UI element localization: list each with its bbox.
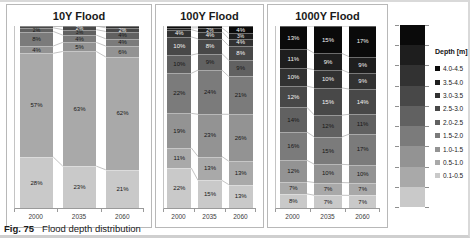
panel-100y-flood: 100Y Flood 22%11%19%22%10%10%4%15%13%23%… xyxy=(155,4,264,228)
legend-swatch-icon xyxy=(435,106,440,111)
bar-segment-0.5-1.0: 7% xyxy=(314,183,341,196)
bar-segment-2.5-3.0: 8% xyxy=(198,39,222,54)
scale-tick xyxy=(395,65,399,66)
panel-1000y-flood: 1000Y Flood 8%7%12%16%14%12%10%11%13%7%7… xyxy=(267,4,388,228)
bar-segment-0.5-1.0: 57% xyxy=(20,53,54,157)
legend-label: 2.0-2.5 xyxy=(443,119,463,126)
stacked-bar-2060: 13%13%26%21%9%8%4%3%4% xyxy=(229,26,253,208)
legend-label: 2.5-3.0 xyxy=(443,105,463,112)
bar-segment-1.5-2.0: 24% xyxy=(198,70,222,114)
bar-segment-3.5-4.0: 11% xyxy=(280,49,307,68)
legend-item-3.0-3.5: 3.0-3.5 xyxy=(435,89,468,102)
axis-tick xyxy=(310,209,311,212)
bar-segment-0.1-0.5: 15% xyxy=(198,180,222,208)
scale-segment-3.5-4.0 xyxy=(400,45,425,65)
depth-color-scale xyxy=(400,25,425,207)
x-axis-label-2035: 2035 xyxy=(72,213,86,220)
bar-segment-1.0-1.5: 10% xyxy=(349,165,376,183)
bar-segment-1.5-2.0: 17% xyxy=(349,134,376,165)
bar-segment-1.0-1.5: 26% xyxy=(229,114,253,161)
scale-segment-1.5-2.0 xyxy=(400,126,425,146)
bar-segment-0.1-0.5: 28% xyxy=(20,157,54,208)
legend-label: 0.5-1.0 xyxy=(443,159,463,166)
stacked-bar-2060: 21%62%6%4%4%2% xyxy=(106,26,140,208)
legend-title: Depth [m] xyxy=(435,48,468,55)
bar-segment-0.1-0.5: 22% xyxy=(167,168,191,208)
legend-label: 3.5-4.0 xyxy=(443,79,463,86)
stacked-bar-2035: 7%7%10%15%12%15%10%9%15% xyxy=(314,26,341,208)
x-axis-label-2000: 2000 xyxy=(28,213,42,220)
axis-tick xyxy=(143,209,144,212)
bar-segment-2.0-2.5: 11% xyxy=(349,114,376,134)
bar-segment-2.0-2.5: 9% xyxy=(229,60,253,76)
stacked-bar-2000: 8%7%12%16%14%12%10%11%13% xyxy=(280,26,307,208)
stacked-bar-2035: 23%63%5%4%3%2% xyxy=(63,26,97,208)
figure-row: 10Y Flood 28%57%4%8%2%23%63%5%4%3%2%21%6… xyxy=(6,4,469,228)
bar-segment-2.0-2.5: 9% xyxy=(198,54,222,71)
scale-segment-4.0-4.5 xyxy=(400,25,425,45)
stacked-bar-2060: 7%7%10%17%11%14%9%9%17% xyxy=(349,26,376,208)
axis-tick xyxy=(101,209,102,212)
x-axis-1000y: 200020352060 xyxy=(275,209,380,225)
scale-segment-2.0-2.5 xyxy=(400,106,425,126)
axis-tick xyxy=(255,209,256,212)
x-axis-label-2060: 2060 xyxy=(355,213,369,220)
legend: Depth [m] 4.0-4.53.5-4.03.0-3.52.5-3.02.… xyxy=(435,48,468,183)
bar-segment-4.0-4.5: 4% xyxy=(229,26,253,33)
legend-swatch-icon xyxy=(435,160,440,165)
x-axis-100y: 200020352060 xyxy=(163,209,256,225)
bar-segment-0.1-0.5: 8% xyxy=(280,194,307,208)
bar-segment-1.0-1.5: 6% xyxy=(106,46,140,57)
stacked-bar-2000: 22%11%19%22%10%10%4% xyxy=(167,26,191,208)
scale-tick xyxy=(395,106,399,107)
bar-segment-4.0-4.5: 17% xyxy=(349,26,376,57)
bar-segment-3.0-3.5: 10% xyxy=(314,70,341,88)
axis-tick xyxy=(14,209,15,212)
bar-segment-1.5-2.0: 4% xyxy=(63,35,97,42)
bar-segment-1.0-1.5: 19% xyxy=(167,113,191,148)
legend-swatch-icon xyxy=(435,120,440,125)
scale-segment-2.5-3.0 xyxy=(400,86,425,106)
scale-tick xyxy=(425,86,429,87)
bar-segment-2.5-3.0: 15% xyxy=(314,88,341,115)
bar-segment-3.0-3.5: 4% xyxy=(198,32,222,39)
scale-tick xyxy=(395,86,399,87)
bar-segment-1.5-2.0: 16% xyxy=(280,132,307,160)
scale-tick xyxy=(425,25,429,26)
panel-10y-flood: 10Y Flood 28%57%4%8%2%23%63%5%4%3%2%21%6… xyxy=(6,4,152,228)
bar-segment-1.5-2.0: 21% xyxy=(229,76,253,114)
scale-tick xyxy=(425,187,429,188)
bar-segment-0.5-1.0: 13% xyxy=(198,157,222,181)
bar-segment-1.0-1.5: 23% xyxy=(198,114,222,156)
bar-segment-0.1-0.5: 7% xyxy=(314,195,341,208)
x-axis-label-2060: 2060 xyxy=(233,213,247,220)
bar-segment-1.0-1.5: 10% xyxy=(314,164,341,182)
bar-segment-0.5-1.0: 63% xyxy=(63,51,97,166)
bar-segment-0.5-1.0: 13% xyxy=(229,161,253,184)
x-axis-label-2000: 2000 xyxy=(285,213,299,220)
scale-tick xyxy=(395,45,399,46)
bar-segment-4.0-4.5: 15% xyxy=(314,26,341,53)
bar-segment-1.5-2.0: 4% xyxy=(106,39,140,46)
plot-area-10y: 28%57%4%8%2%23%63%5%4%3%2%21%62%6%4%4%2% xyxy=(14,26,144,209)
plot-area-1000y: 8%7%12%16%14%12%10%11%13%7%7%10%15%12%15… xyxy=(275,26,380,209)
bar-segment-3.5-4.0: 9% xyxy=(314,53,341,69)
legend-swatch-icon xyxy=(435,80,440,85)
scale-tick xyxy=(395,25,399,26)
axis-tick xyxy=(225,209,226,212)
bar-segment-0.5-1.0: 11% xyxy=(167,148,191,168)
panel-title-10y: 10Y Flood xyxy=(7,9,151,26)
scale-segment-0.1-0.5 xyxy=(400,187,425,207)
axis-tick xyxy=(345,209,346,212)
bar-segment-1.0-1.5: 4% xyxy=(20,46,54,53)
bar-segment-0.5-1.0: 62% xyxy=(106,57,140,170)
legend-swatch-icon xyxy=(435,173,440,178)
caption-label: Fig. 75 xyxy=(4,223,34,234)
scale-tick xyxy=(425,45,429,46)
legend-label: 4.0-4.5 xyxy=(443,65,463,72)
legend-column: Depth [m] 4.0-4.53.5-4.03.0-3.52.5-3.02.… xyxy=(391,4,469,228)
legend-item-0.1-0.5: 0.1-0.5 xyxy=(435,169,468,182)
scale-segment-3.0-3.5 xyxy=(400,65,425,85)
bar-segment-4.0-4.5: 13% xyxy=(280,26,307,49)
legend-item-2.5-3.0: 2.5-3.0 xyxy=(435,102,468,115)
